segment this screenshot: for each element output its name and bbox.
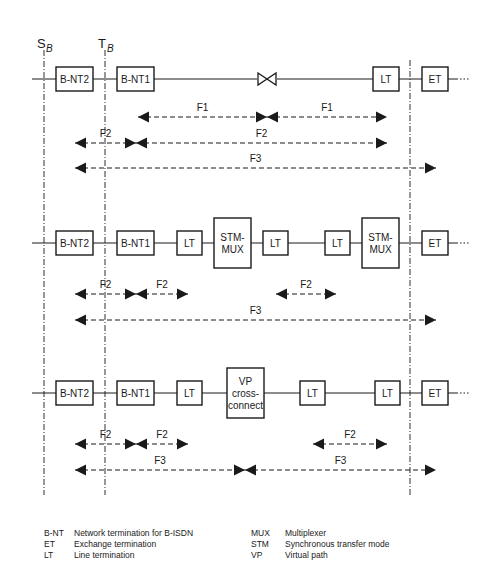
block-label: LT (270, 238, 281, 249)
functional-block: B-NT2 (56, 381, 93, 405)
legend-abbr: MUX (251, 528, 285, 539)
functional-block: STM-MUX (214, 218, 251, 268)
flow-arrow-f2: F2 (276, 279, 336, 300)
arrowhead-right-icon (376, 112, 387, 123)
flow-arrow-f2: F2 (75, 128, 136, 149)
arrowhead-right-icon (325, 289, 336, 300)
block-label: STM- (220, 232, 244, 243)
flow-label: F1 (197, 102, 209, 113)
block-label: LT (382, 388, 393, 399)
legend-desc: Multiplexer (285, 528, 326, 539)
flow-label: F2 (100, 279, 112, 290)
arrowhead-right-icon (425, 465, 436, 476)
block-label: cross- (232, 388, 259, 399)
block-label: B-NT2 (60, 238, 89, 249)
functional-block: LT (177, 231, 202, 255)
arrowhead-right-icon (425, 315, 436, 326)
block-label: B-NT2 (60, 74, 89, 85)
legend-abbr: VP (251, 550, 285, 561)
functional-block: LT (300, 381, 325, 405)
flow-arrow-f2: F2 (136, 128, 387, 149)
arrowhead-right-icon (234, 465, 245, 476)
functional-block: B-NT2 (56, 67, 93, 91)
flow-label: F3 (154, 455, 166, 466)
flow-arrow-f2: F2 (75, 279, 136, 300)
legend-right: MUX Multiplexer STM Synchronous transfer… (251, 528, 389, 561)
arrowhead-left-icon (267, 112, 278, 123)
arrowhead-right-icon (425, 163, 436, 174)
block-label: VP (239, 376, 253, 387)
reference-configuration-diagram: SBTB B-NT2B-NT1LTETF1F1F2F2F3B-NT2B-NT1L… (0, 0, 496, 500)
block-label: LT (184, 388, 195, 399)
flow-label: F2 (256, 128, 268, 139)
flow-arrow-f3: F3 (75, 153, 436, 174)
flow-arrow-f2: F2 (75, 429, 136, 450)
functional-block: LT (263, 231, 288, 255)
arrowhead-right-icon (376, 138, 387, 149)
flow-label: F2 (100, 128, 112, 139)
arrowhead-left-icon (75, 465, 86, 476)
arrowhead-left-icon (75, 315, 86, 326)
legend-item: LT Line termination (44, 550, 193, 561)
functional-block: VPcross-connect (227, 368, 264, 418)
block-label: MUX (221, 244, 244, 255)
configuration-row-3: B-NT2B-NT1LTVPcross-connectLTLTETF2F2F2F… (32, 368, 470, 476)
arrowhead-right-icon (125, 439, 136, 450)
flow-arrow-f1: F1 (267, 102, 387, 123)
legend-abbr: LT (44, 550, 74, 561)
flow-label: F2 (156, 279, 168, 290)
flow-arrow-f2: F2 (313, 429, 387, 450)
arrowhead-left-icon (245, 465, 256, 476)
block-label: ET (429, 74, 442, 85)
functional-block: B-NT1 (117, 381, 154, 405)
tb-subscript: B (107, 43, 114, 54)
functional-block: ET (422, 67, 448, 91)
configuration-row-2: B-NT2B-NT1LTSTM-MUXLTLTSTM-MUXETF2F2F2F3 (32, 218, 470, 326)
arrowhead-left-icon (138, 112, 149, 123)
flow-label: F2 (100, 429, 112, 440)
legend-item: STM Synchronous transfer mode (251, 539, 389, 550)
arrowhead-left-icon (136, 289, 147, 300)
tb-label: T (98, 36, 106, 51)
arrowhead-left-icon (313, 439, 324, 450)
legend-desc: Virtual path (285, 550, 328, 561)
arrowhead-left-icon (75, 289, 86, 300)
legend-abbr: B-NT (44, 528, 74, 539)
functional-block: ET (422, 381, 448, 405)
block-label: connect (228, 400, 263, 411)
functional-block: LT (373, 67, 399, 91)
arrowhead-left-icon (75, 439, 86, 450)
legend-item: ET Exchange termination (44, 539, 193, 550)
block-label: MUX (369, 244, 392, 255)
arrowhead-right-icon (125, 289, 136, 300)
sb-subscript: B (46, 43, 53, 54)
legend-item: MUX Multiplexer (251, 528, 389, 539)
flow-arrow-f2: F2 (136, 429, 188, 450)
legend-desc: Line termination (74, 550, 134, 561)
legend-abbr: ET (44, 539, 74, 550)
legend-abbr: STM (251, 539, 285, 550)
arrowhead-left-icon (136, 138, 147, 149)
sb-label: S (37, 36, 46, 51)
flow-label: F3 (250, 153, 262, 164)
arrowhead-right-icon (256, 112, 267, 123)
block-label: LT (184, 238, 195, 249)
arrowhead-left-icon (276, 289, 287, 300)
functional-block: STM-MUX (362, 218, 399, 268)
flow-label: F2 (156, 429, 168, 440)
flow-arrow-f1: F1 (138, 102, 267, 123)
functional-block: ET (422, 231, 448, 255)
legend-desc: Network termination for B-ISDN (74, 528, 193, 539)
flow-label: F2 (344, 429, 356, 440)
legend-desc: Exchange termination (74, 539, 156, 550)
arrowhead-left-icon (75, 138, 86, 149)
configuration-rows: B-NT2B-NT1LTETF1F1F2F2F3B-NT2B-NT1LTSTM-… (32, 67, 470, 476)
functional-block: LT (177, 381, 202, 405)
arrowhead-right-icon (177, 289, 188, 300)
block-label: B-NT2 (60, 388, 89, 399)
functional-block: B-NT2 (56, 231, 93, 255)
configuration-row-1: B-NT2B-NT1LTETF1F1F2F2F3 (32, 67, 470, 174)
flow-label: F3 (335, 455, 347, 466)
legend-item: B-NT Network termination for B-ISDN (44, 528, 193, 539)
block-label: ET (429, 388, 442, 399)
